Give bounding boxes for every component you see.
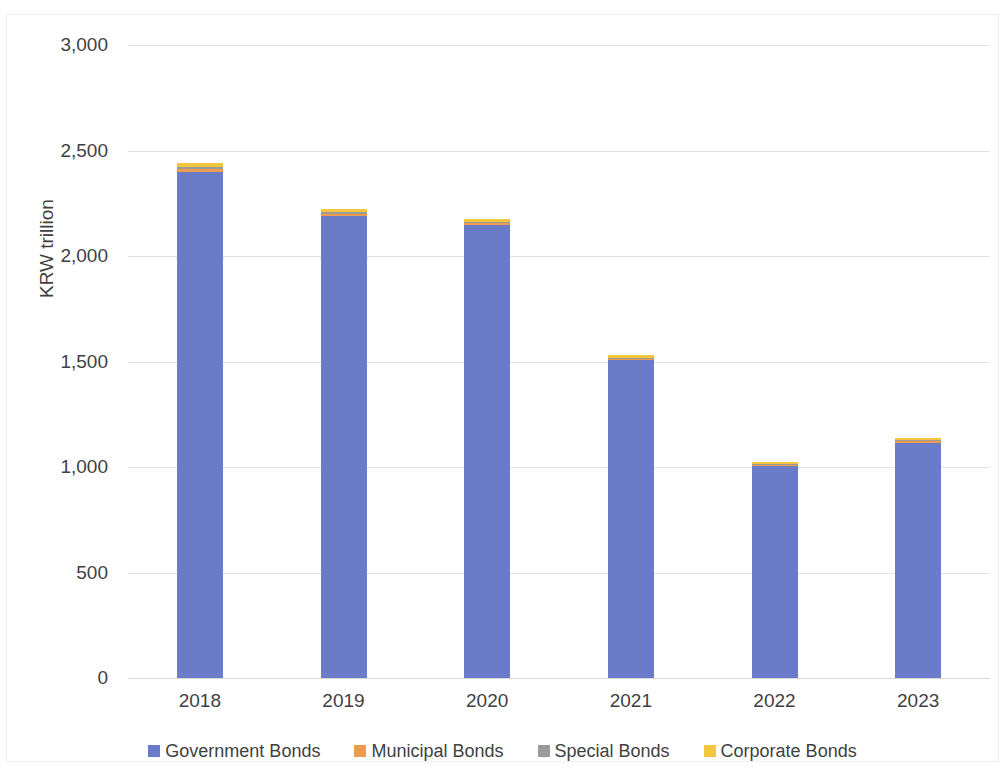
- gridline-500: [128, 573, 990, 574]
- bar-segment-special-bonds-2023[interactable]: [895, 440, 941, 441]
- gridline-2500: [128, 151, 990, 152]
- gridline-3000: [128, 45, 990, 46]
- bar-segment-government-bonds-2022[interactable]: [752, 466, 798, 678]
- gridline-0: [128, 678, 990, 679]
- square-swatch-blue-icon: [148, 745, 160, 757]
- x-tick-label-2022: 2022: [753, 690, 795, 712]
- square-swatch-gray-icon: [538, 745, 550, 757]
- bar-segment-special-bonds-2020[interactable]: [464, 222, 510, 223]
- y-axis-tick-labels: 3,0002,5002,0001,5001,0005000: [0, 45, 118, 678]
- bar-segment-government-bonds-2018[interactable]: [177, 172, 223, 678]
- legend-item-government-bonds[interactable]: Government Bonds: [148, 741, 320, 762]
- square-swatch-yellow-icon: [704, 745, 716, 757]
- bar-segment-government-bonds-2020[interactable]: [464, 225, 510, 678]
- gridline-1500: [128, 362, 990, 363]
- bar-column-2019[interactable]: [321, 45, 367, 678]
- x-axis-tick-labels: 201820192020202120222023: [128, 690, 990, 724]
- y-tick-label-500: 500: [76, 562, 108, 584]
- x-tick-label-2021: 2021: [610, 690, 652, 712]
- bar-segment-municipal-bonds-2021[interactable]: [608, 359, 654, 361]
- bar-column-2023[interactable]: [895, 45, 941, 678]
- x-tick-label-2019: 2019: [322, 690, 364, 712]
- bar-segment-government-bonds-2021[interactable]: [608, 360, 654, 678]
- square-swatch-orange-icon: [354, 745, 366, 757]
- bar-segment-municipal-bonds-2020[interactable]: [464, 223, 510, 225]
- bar-segment-government-bonds-2023[interactable]: [895, 443, 941, 678]
- bar-segment-government-bonds-2019[interactable]: [321, 216, 367, 678]
- y-tick-label-2500: 2,500: [60, 140, 108, 162]
- y-tick-label-0: 0: [97, 667, 108, 689]
- gridline-2000: [128, 256, 990, 257]
- x-tick-label-2023: 2023: [897, 690, 939, 712]
- y-tick-label-3000: 3,000: [60, 34, 108, 56]
- bar-column-2021[interactable]: [608, 45, 654, 678]
- bar-segment-special-bonds-2021[interactable]: [608, 358, 654, 359]
- bar-segment-municipal-bonds-2018[interactable]: [177, 169, 223, 172]
- bar-segment-municipal-bonds-2023[interactable]: [895, 441, 941, 442]
- bar-segment-corporate-bonds-2023[interactable]: [895, 438, 941, 441]
- bar-segment-corporate-bonds-2020[interactable]: [464, 219, 510, 222]
- bar-segment-special-bonds-2022[interactable]: [752, 464, 798, 465]
- bar-segment-corporate-bonds-2021[interactable]: [608, 355, 654, 358]
- bar-segment-special-bonds-2019[interactable]: [321, 212, 367, 213]
- bar-segment-special-bonds-2018[interactable]: [177, 167, 223, 169]
- bond-market-stacked-bar-chart: KRW trillion 3,0002,5002,0001,5001,00050…: [0, 0, 1005, 779]
- bar-column-2020[interactable]: [464, 45, 510, 678]
- legend-item-corporate-bonds[interactable]: Corporate Bonds: [704, 741, 857, 762]
- y-tick-label-1000: 1,000: [60, 456, 108, 478]
- bar-segment-municipal-bonds-2019[interactable]: [321, 214, 367, 216]
- x-tick-label-2020: 2020: [466, 690, 508, 712]
- bar-column-2018[interactable]: [177, 45, 223, 678]
- legend-item-special-bonds[interactable]: Special Bonds: [538, 741, 670, 762]
- legend-label: Municipal Bonds: [371, 741, 503, 762]
- bar-segment-corporate-bonds-2022[interactable]: [752, 462, 798, 464]
- bar-column-2022[interactable]: [752, 45, 798, 678]
- bar-segment-corporate-bonds-2019[interactable]: [321, 209, 367, 213]
- x-tick-label-2018: 2018: [179, 690, 221, 712]
- chart-legend: Government BondsMunicipal BondsSpecial B…: [0, 736, 1005, 766]
- legend-label: Government Bonds: [165, 741, 320, 762]
- plot-area: [128, 45, 990, 678]
- y-tick-label-1500: 1,500: [60, 351, 108, 373]
- bar-segment-corporate-bonds-2018[interactable]: [177, 163, 223, 167]
- gridline-1000: [128, 467, 990, 468]
- y-tick-label-2000: 2,000: [60, 245, 108, 267]
- legend-label: Corporate Bonds: [721, 741, 857, 762]
- legend-label: Special Bonds: [555, 741, 670, 762]
- legend-item-municipal-bonds[interactable]: Municipal Bonds: [354, 741, 503, 762]
